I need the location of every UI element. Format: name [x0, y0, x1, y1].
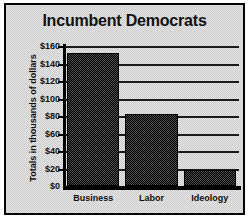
y-axis-tick-label: $160	[40, 41, 60, 51]
x-axis-tick-labels: BusinessLaborIdeology	[64, 193, 242, 209]
chart-screenshot: Incumbent Democrats Totals in thousands …	[0, 0, 249, 219]
plot-area	[64, 46, 239, 186]
x-axis-line	[63, 186, 241, 190]
chart-frame: Incumbent Democrats Totals in thousands …	[4, 3, 245, 215]
bar-labor	[125, 114, 178, 186]
y-axis-tick-label: $0	[50, 181, 60, 191]
x-axis-tick-label: Ideology	[191, 193, 228, 203]
bar-ideology	[184, 170, 237, 186]
chart-title: Incumbent Democrats	[6, 12, 243, 30]
x-axis-tick-label: Business	[73, 193, 113, 203]
y-axis-tick-label: $140	[40, 59, 60, 69]
y-axis-tick-labels: $160$140$120$100$80$60$40$20$0	[22, 46, 60, 186]
bar-business	[67, 53, 120, 186]
y-axis-tick-label: $120	[40, 76, 60, 86]
x-axis-tick-label: Labor	[139, 193, 164, 203]
bar-series	[64, 46, 239, 186]
y-axis-tick-label: $100	[40, 94, 60, 104]
